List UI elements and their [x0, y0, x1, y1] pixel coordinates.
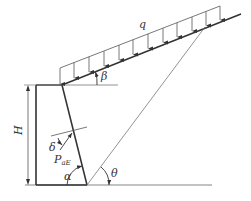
force-label-sub: aE — [61, 159, 70, 167]
delta-arc — [58, 138, 62, 145]
beta-label: β — [100, 70, 107, 83]
load-label-q: q — [139, 18, 146, 31]
wall-normal-line — [51, 127, 87, 136]
retaining-wall — [36, 85, 87, 185]
height-label-H: H — [12, 125, 25, 136]
alpha-label: α — [64, 170, 72, 183]
force-vector — [60, 133, 72, 150]
theta-arc — [101, 167, 109, 185]
backfill-slope — [62, 14, 241, 85]
beta-arc — [96, 72, 98, 85]
height-dimension — [24, 85, 36, 185]
force-label: PaE — [53, 153, 71, 167]
earth-pressure-force — [51, 127, 87, 150]
retaining-wall-diagram: q β H δ PaE α θ — [0, 0, 251, 201]
theta-label: θ — [111, 167, 118, 180]
